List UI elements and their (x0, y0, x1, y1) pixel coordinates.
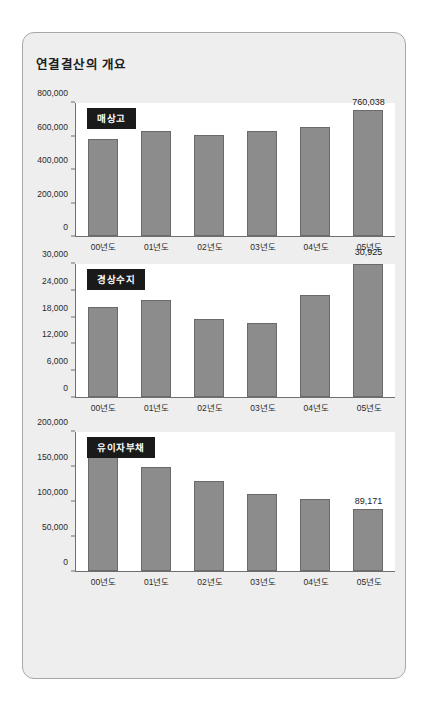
bar-slot (289, 264, 342, 397)
y-tick-mark (71, 571, 75, 572)
bar (88, 307, 118, 397)
bar-slot (182, 103, 235, 236)
bar (141, 300, 171, 397)
x-tick-label: 03년도 (237, 401, 290, 413)
series-badge-interest-bearing-debt: 유이자부채 (87, 437, 155, 458)
y-tick-mark (71, 343, 75, 344)
y-tick-mark (71, 202, 75, 203)
x-tick-label: 00년도 (77, 575, 130, 587)
x-tick-label: 01년도 (130, 240, 183, 252)
x-tick-label: 04년도 (290, 401, 343, 413)
x-tick-label: 05년도 (343, 401, 396, 413)
y-tick-label: 6,000 (47, 356, 68, 366)
bar (194, 135, 224, 236)
y-tick-label: 150,000 (37, 452, 68, 462)
bar (247, 323, 277, 397)
bar-slot (236, 264, 289, 397)
y-tick-label: 800,000 (37, 88, 68, 98)
bar-slot: 30,925 (342, 264, 395, 397)
bar (353, 509, 383, 571)
x-axis-line-interest-bearing-debt (75, 571, 395, 572)
bar-slot (236, 103, 289, 236)
bar (300, 499, 330, 571)
bar-slot (182, 264, 235, 397)
x-tick-label: 04년도 (290, 575, 343, 587)
y-tick-mark (71, 501, 75, 502)
page-title: 연결결산의 개요 (36, 54, 127, 73)
y-tick-mark (71, 536, 75, 537)
bar (194, 481, 224, 571)
y-tick-mark (71, 263, 75, 264)
bar-slot: 89,171 (342, 432, 395, 571)
y-tick-label: 200,000 (37, 189, 68, 199)
bar (353, 264, 383, 397)
bar-slot (289, 432, 342, 571)
y-tick-label: 600,000 (37, 122, 68, 132)
y-tick-label: 400,000 (37, 155, 68, 165)
series-badge-sales: 매상고 (87, 108, 136, 129)
y-tick-label: 50,000 (42, 522, 68, 532)
y-tick-mark (71, 431, 75, 432)
x-tick-label: 03년도 (237, 240, 290, 252)
y-tick-mark (71, 466, 75, 467)
y-tick-label: 24,000 (42, 276, 68, 286)
y-tick-label: 0 (63, 557, 68, 567)
x-tick-label: 01년도 (130, 401, 183, 413)
y-tick-label: 12,000 (42, 329, 68, 339)
x-tick-label: 02년도 (183, 575, 236, 587)
bar-value-label: 760,038 (352, 97, 385, 107)
bar-slot (129, 103, 182, 236)
x-tick-label: 03년도 (237, 575, 290, 587)
y-tick-label: 18,000 (42, 303, 68, 313)
series-badge-current-balance: 경상수지 (87, 269, 145, 290)
bar-value-label: 89,171 (355, 496, 383, 506)
bar-slot (236, 432, 289, 571)
x-tick-label: 05년도 (343, 575, 396, 587)
bar (194, 319, 224, 397)
x-tick-label: 00년도 (77, 240, 130, 252)
x-tick-label: 02년도 (183, 401, 236, 413)
bar (141, 467, 171, 571)
bar-value-label: 30,925 (355, 247, 383, 257)
bar-slot (289, 103, 342, 236)
y-tick-mark (71, 316, 75, 317)
y-tick-label: 0 (63, 383, 68, 393)
y-tick-mark (71, 289, 75, 290)
bar-slot (182, 432, 235, 571)
x-axis-line-current-balance (75, 397, 395, 398)
y-tick-mark (71, 236, 75, 237)
bar (353, 110, 383, 236)
bar (247, 494, 277, 571)
bar (88, 139, 118, 236)
y-tick-mark (71, 370, 75, 371)
y-tick-mark (71, 169, 75, 170)
bar (141, 131, 171, 236)
x-tick-label: 02년도 (183, 240, 236, 252)
x-tick-label: 04년도 (290, 240, 343, 252)
y-tick-label: 200,000 (37, 417, 68, 427)
y-tick-label: 0 (63, 222, 68, 232)
bar (247, 131, 277, 236)
y-tick-label: 30,000 (42, 249, 68, 259)
page-root: 연결결산의 개요 0200,000400,000600,000800,000 7… (0, 0, 428, 711)
y-tick-mark (71, 135, 75, 136)
y-tick-mark (71, 397, 75, 398)
y-tick-mark (71, 102, 75, 103)
x-tick-label: 01년도 (130, 575, 183, 587)
bar (88, 441, 118, 571)
bar (300, 127, 330, 236)
x-axis-line-sales (75, 236, 395, 237)
x-tick-label: 00년도 (77, 401, 130, 413)
y-tick-label: 100,000 (37, 487, 68, 497)
bar (300, 295, 330, 397)
bar-slot: 760,038 (342, 103, 395, 236)
